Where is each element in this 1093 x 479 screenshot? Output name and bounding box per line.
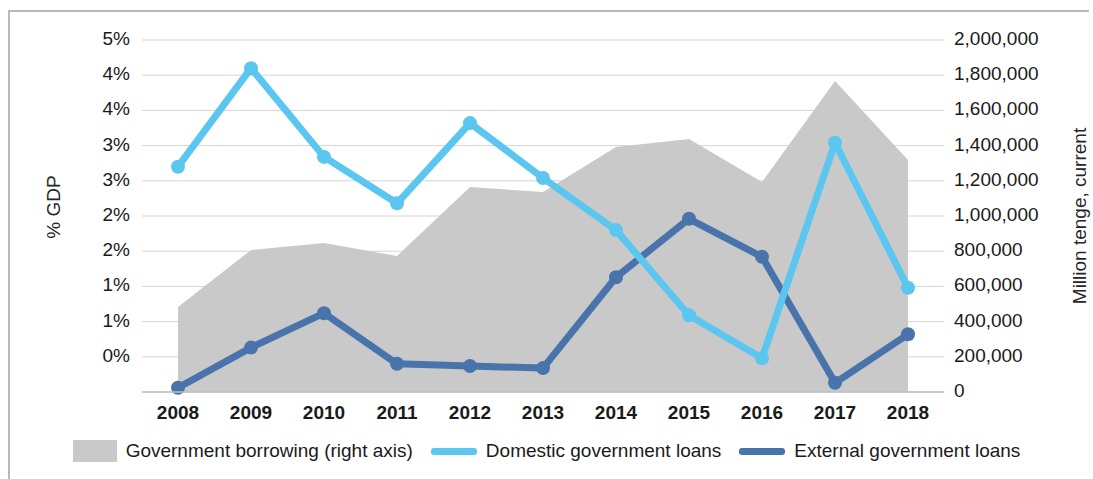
y-axis-right-tick-label: 2,000,000 [954,28,1093,50]
y-axis-right-tick-label: 1,800,000 [954,63,1093,85]
legend-item-label: Domestic government loans [486,440,722,462]
y-axis-left-tick-label: 3% [60,169,130,191]
y-axis-left-tick-label: 1% [60,310,130,332]
y-axis-left-tick-label: 1% [60,274,130,296]
y-axis-left-tick-label: 3% [60,134,130,156]
government-borrowing-area [178,81,908,392]
y-axis-right-tick-label: 200,000 [954,345,1093,367]
y-axis-left-tick-label: 4% [60,63,130,85]
y-axis-right-tick-label: 1,400,000 [954,134,1093,156]
x-axis-tick-label: 2012 [430,402,510,424]
data-point-marker [317,306,331,320]
data-point-marker [463,359,477,373]
x-axis-tick-label: 2013 [503,402,583,424]
y-axis-right-tick-label: 0 [954,380,1093,402]
data-point-marker [901,281,915,295]
legend-line-swatch-icon [739,448,785,455]
x-axis-tick-label: 2011 [357,402,437,424]
legend-item-label: External government loans [794,440,1020,462]
data-point-marker [609,270,623,284]
x-axis-tick-label: 2018 [868,402,948,424]
data-point-marker [390,357,404,371]
data-point-marker [682,308,696,322]
x-axis-tick-label: 2008 [138,402,218,424]
data-point-marker [682,212,696,226]
legend-line-swatch-icon [431,448,477,455]
data-point-marker [828,376,842,390]
y-axis-left-tick-label: 5% [60,28,130,50]
y-axis-right-tick-label: 1,000,000 [954,204,1093,226]
data-point-marker [536,361,550,375]
y-axis-left-tick-label: 4% [60,98,130,120]
data-point-marker [317,150,331,164]
data-point-marker [171,160,185,174]
data-point-marker [755,351,769,365]
data-point-marker [828,136,842,150]
y-axis-right-tick-label: 800,000 [954,239,1093,261]
x-axis-tick-label: 2015 [649,402,729,424]
y-axis-left-tick-label: 2% [60,239,130,261]
x-axis-tick-label: 2016 [722,402,802,424]
y-axis-right-tick-label: 1,200,000 [954,169,1093,191]
data-point-marker [901,327,915,341]
x-axis-tick-label: 2009 [211,402,291,424]
data-point-marker [244,61,258,75]
y-axis-left-tick-label: 2% [60,204,130,226]
legend-item-label: Government borrowing (right axis) [126,440,413,462]
data-point-marker [244,341,258,355]
y-axis-right-tick-label: 1,600,000 [954,98,1093,120]
data-point-marker [463,116,477,130]
data-point-marker [390,196,404,210]
x-axis-tick-label: 2017 [795,402,875,424]
legend-item[interactable]: Domestic government loans [431,440,722,462]
legend-item[interactable]: External government loans [739,440,1020,462]
legend-area-swatch-icon [73,440,117,462]
data-point-marker [536,171,550,185]
chart-legend: Government borrowing (right axis)Domesti… [0,440,1093,462]
data-point-marker [609,223,623,237]
chart-figure: % GDP Million tenge, current 5%4%4%3%3%2… [0,0,1093,479]
y-axis-right-tick-label: 400,000 [954,310,1093,332]
legend-item[interactable]: Government borrowing (right axis) [73,440,413,462]
data-point-marker [755,250,769,264]
y-axis-right-tick-label: 600,000 [954,274,1093,296]
y-axis-left-tick-label: 0% [60,345,130,367]
x-axis-tick-label: 2014 [576,402,656,424]
x-axis-tick-label: 2010 [284,402,364,424]
